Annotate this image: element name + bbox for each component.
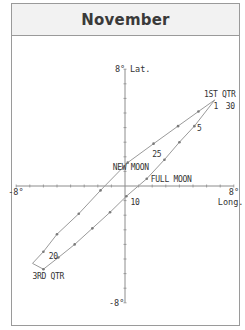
x-axis-title: Long.	[218, 197, 244, 207]
annotation-25: 25	[152, 150, 162, 159]
day-marker	[197, 110, 200, 113]
annotation-10: 10	[130, 198, 140, 207]
annotation-1st-qtr: 1ST QTR	[204, 90, 236, 99]
day-marker	[77, 212, 80, 215]
day-marker	[177, 125, 180, 128]
annotation-3rd-qtr: 3RD QTR	[33, 272, 65, 281]
day-marker	[42, 268, 45, 271]
day-marker	[91, 227, 94, 230]
axes: -8°8°Long.8°Lat.-8°	[8, 64, 243, 308]
day-marker	[109, 211, 112, 214]
day-marker	[163, 158, 166, 161]
day-marker	[178, 141, 181, 144]
moon-paths	[33, 100, 215, 271]
annotation-5: 5	[197, 124, 202, 133]
day-marker	[73, 243, 76, 246]
annotation-1: 1	[213, 102, 218, 111]
day-marker	[152, 142, 155, 145]
day-marker	[56, 233, 59, 236]
day-marker	[193, 125, 196, 128]
annotation-20: 20	[49, 252, 59, 261]
day-marker	[99, 189, 102, 192]
annotation-new-moon: NEW MOON	[113, 163, 150, 172]
lower-path	[33, 100, 215, 269]
moon-path-chart: -8°8°Long.8°Lat.-8° 1ST QTR130525NEW MOO…	[0, 0, 245, 330]
day-marker	[42, 250, 45, 253]
y-min-label: -8°	[109, 298, 124, 308]
annotation-full-moon: FULL MOON	[151, 175, 192, 184]
x-min-label: -8°	[8, 187, 23, 197]
annotation-30: 30	[226, 102, 236, 111]
y-axis-title: Lat.	[130, 64, 150, 74]
y-max-label: 8°	[115, 64, 125, 74]
day-marker	[125, 195, 128, 198]
day-marker	[145, 177, 148, 180]
x-max-label: 8°	[229, 187, 239, 197]
